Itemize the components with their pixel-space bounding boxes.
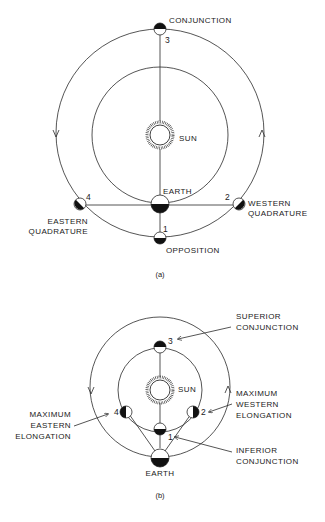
- western-quadrature-label-line2: QUADRATURE: [248, 209, 307, 218]
- superior-conjunction-label-line2: CONJUNCTION: [236, 323, 299, 332]
- planet-max-western-elongation-icon: [187, 406, 199, 418]
- planet-max-eastern-elongation-icon: [120, 406, 132, 418]
- eastern-quadrature-label-line2: QUADRATURE: [29, 227, 88, 236]
- position-number-4: 4: [86, 192, 91, 202]
- position-number-4-b: 4: [114, 407, 119, 417]
- line-earth-east-elongation: [129, 414, 155, 451]
- planet-superior-conjunction-icon: [154, 341, 166, 353]
- orbit-direction-arrow-icon: [88, 387, 94, 394]
- superior-conjunction-label-line1: SUPERIOR: [236, 312, 281, 321]
- earth-icon: [151, 195, 169, 213]
- figure-b: SUN EARTH 3 SUPERIOR CONJUNCTION 1 INFER…: [15, 312, 298, 500]
- sun-icon: [147, 122, 173, 148]
- planet-inferior-conjunction-icon: [154, 423, 166, 435]
- planet-conjunction-icon: [154, 23, 166, 35]
- sun-icon: [147, 377, 173, 403]
- sun-label-b: SUN: [178, 385, 196, 394]
- max-eastern-elongation-pointer: [74, 414, 108, 426]
- max-eastern-label-line1: MAXIMUM: [30, 410, 71, 419]
- position-number-2-b: 2: [201, 407, 206, 417]
- opposition-label: OPPOSITION: [166, 246, 220, 255]
- inferior-conjunction-label-line2: CONJUNCTION: [236, 457, 299, 466]
- inferior-conjunction-pointer: [175, 437, 232, 452]
- sun-label: SUN: [179, 134, 197, 143]
- position-number-3-b: 3: [168, 336, 173, 346]
- western-quadrature-label-line1: WESTERN: [248, 199, 291, 208]
- inferior-conjunction-label-line1: INFERIOR: [236, 446, 277, 455]
- max-western-elongation-pointer: [209, 404, 232, 412]
- earth-icon: [151, 449, 169, 467]
- superior-conjunction-pointer: [178, 327, 231, 339]
- figure-a-caption: (a): [155, 270, 165, 279]
- position-number-3: 3: [165, 35, 170, 45]
- earth-label: EARTH: [163, 187, 192, 196]
- eastern-quadrature-label-line1: EASTERN: [47, 217, 88, 226]
- max-western-label-line3: ELONGATION: [236, 411, 292, 420]
- earth-label-b: EARTH: [146, 469, 175, 478]
- max-western-label-line2: WESTERN: [236, 400, 279, 409]
- figure-a: SUN EARTH 3 CONJUNCTION 1 OPPOSITION 4 E…: [29, 16, 308, 279]
- planet-eastern-quadrature-icon: [74, 198, 86, 210]
- position-number-2: 2: [225, 192, 230, 202]
- planetary-configurations-diagram: SUN EARTH 3 CONJUNCTION 1 OPPOSITION 4 E…: [0, 0, 325, 522]
- position-number-1: 1: [163, 224, 168, 234]
- max-western-label-line1: MAXIMUM: [236, 389, 277, 398]
- max-eastern-label-line2: EASTERN: [30, 421, 71, 430]
- max-eastern-label-line3: ELONGATION: [15, 432, 71, 441]
- position-number-1-b: 1: [168, 432, 173, 442]
- figure-b-caption: (b): [155, 491, 165, 500]
- conjunction-label: CONJUNCTION: [169, 16, 232, 25]
- planet-western-quadrature-icon: [233, 198, 245, 210]
